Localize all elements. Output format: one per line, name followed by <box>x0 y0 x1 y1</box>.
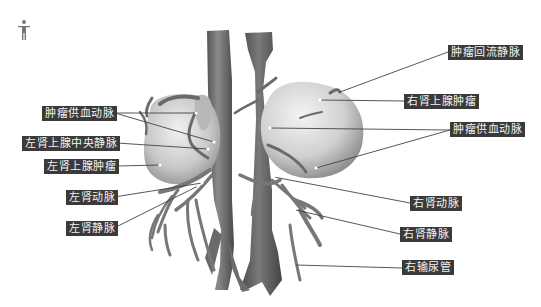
right-adrenal-tumor-shape <box>261 82 364 178</box>
renal-vessel-branches <box>150 170 322 280</box>
label-tumor-draining-vein: 肿瘤回流静脉 <box>448 45 523 60</box>
label-left-adrenal-tumor: 左肾上腺肿瘤 <box>44 159 119 174</box>
person-figure-icon <box>17 19 31 41</box>
label-left-renal-vein: 左肾静脉 <box>66 221 118 236</box>
label-left-renal-artery: 左肾动脉 <box>66 190 118 205</box>
label-left-adrenal-central-vein: 左肾上腺中央静脉 <box>22 136 120 151</box>
label-right-adrenal-tumor: 右肾上腺肿瘤 <box>404 94 479 109</box>
label-right-ureter: 右输尿管 <box>402 260 454 275</box>
label-right-renal-artery: 右肾动脉 <box>410 196 462 211</box>
label-left-tumor-feeding-artery: 肿瘤供血动脉 <box>42 106 117 121</box>
label-right-tumor-feeding-artery: 肿瘤供血动脉 <box>450 122 525 137</box>
label-right-renal-vein: 右肾静脉 <box>400 227 452 242</box>
